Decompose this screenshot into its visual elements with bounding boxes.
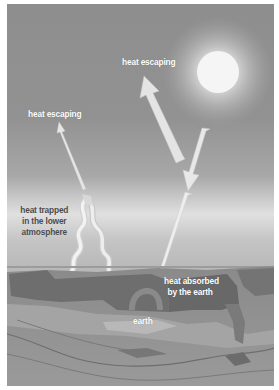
- label-heat-absorbed-line2: by the earth: [164, 286, 219, 297]
- label-earth: earth: [133, 315, 153, 326]
- label-heat-trapped-line2: in the lower: [17, 215, 72, 226]
- label-heat-absorbed: heat absorbed by the earth: [164, 275, 219, 297]
- label-heat-escaping-left: heat escaping: [28, 108, 81, 119]
- sun-icon: [163, 17, 273, 127]
- label-heat-trapped-line1: heat trapped: [17, 204, 72, 215]
- label-heat-trapped-line3: atmosphere: [17, 226, 72, 237]
- label-heat-trapped: heat trapped in the lower atmosphere: [17, 204, 72, 237]
- earth-landscape: [7, 266, 274, 386]
- label-heat-escaping-top: heat escaping: [122, 56, 175, 67]
- greenhouse-diagram: heat escaping heat escaping heat trapped…: [7, 4, 274, 386]
- label-heat-absorbed-line1: heat absorbed: [164, 275, 219, 286]
